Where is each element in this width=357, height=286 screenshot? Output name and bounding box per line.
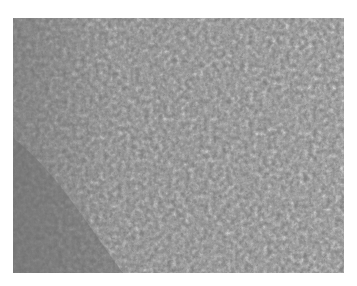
tissue-texture	[13, 18, 344, 273]
histology-micrograph	[13, 18, 344, 273]
